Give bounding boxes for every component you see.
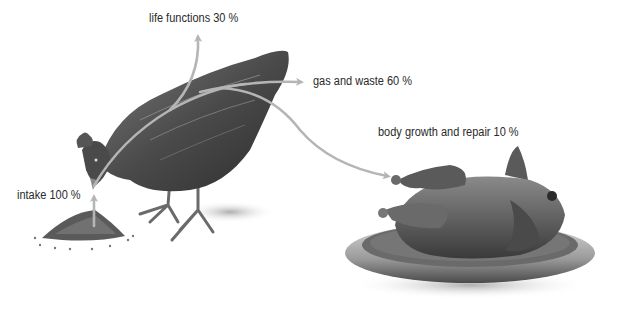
gas-waste-label: gas and waste 60 % <box>313 74 412 88</box>
roast-chicken-platter-icon <box>345 146 595 299</box>
feed-pile-icon <box>34 210 134 250</box>
growth-repair-label: body growth and repair 10 % <box>378 125 519 139</box>
life-functions-label: life functions 30 % <box>149 11 238 25</box>
energy-flow-diagram: life functions 30 % gas and waste 60 % b… <box>0 0 617 316</box>
intake-label: intake 100 % <box>17 188 81 202</box>
illustration-canvas <box>0 0 617 316</box>
